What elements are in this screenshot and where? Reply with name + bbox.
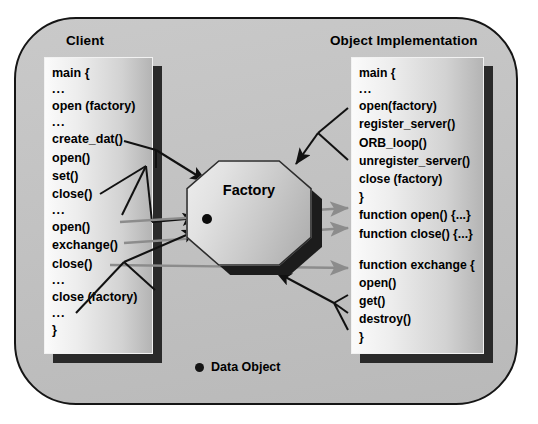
code-line: set() <box>52 167 146 185</box>
code-line: open() <box>52 149 146 167</box>
diagram-root: Client Object Implementation main { ... … <box>0 0 538 424</box>
data-object-dot <box>202 214 212 224</box>
code-line: ... <box>52 82 146 97</box>
data-object-dot-icon <box>195 363 204 372</box>
client-code-box: main { ... open (factory) ... create_dat… <box>44 57 153 354</box>
object-implementation-code-box-surface: main { ... open(factory) register_server… <box>351 57 484 354</box>
code-line: open (factory) <box>52 97 146 115</box>
legend: Data Object <box>195 360 280 374</box>
client-code-box-surface: main { ... open (factory) ... create_dat… <box>44 57 153 354</box>
code-line: ... <box>359 82 477 97</box>
code-line: ... <box>52 203 146 218</box>
code-line: get() <box>359 292 477 310</box>
code-line: open() <box>52 218 146 236</box>
code-line: close() <box>52 255 146 273</box>
object-implementation-code-box: main { ... open(factory) register_server… <box>351 57 484 354</box>
code-line: function open() {...} <box>359 206 477 224</box>
code-line: function exchange { <box>359 256 477 274</box>
code-line: open(factory) <box>359 97 477 115</box>
code-line: register_server() <box>359 115 477 133</box>
code-line: ORB_loop() <box>359 134 477 152</box>
code-line: } <box>359 188 477 206</box>
code-line: function close() {...} <box>359 225 477 243</box>
code-line: ... <box>52 273 146 288</box>
code-line: } <box>52 321 146 339</box>
factory-label: Factory <box>186 182 312 198</box>
code-line: close (factory) <box>359 170 477 188</box>
factory-octagon-outline <box>186 160 312 266</box>
code-line: open() <box>359 274 477 292</box>
object-implementation-title: Object Implementation <box>330 33 478 48</box>
code-line: create_dat() <box>52 130 146 148</box>
code-line: destroy() <box>359 310 477 328</box>
code-line: ... <box>52 306 146 321</box>
client-title: Client <box>66 33 104 48</box>
code-line: close (factory) <box>52 288 146 306</box>
legend-label: Data Object <box>211 360 280 374</box>
code-line: exchange() <box>52 236 146 254</box>
factory-node: Factory <box>186 160 334 282</box>
code-line: close() <box>52 185 146 203</box>
code-line: main { <box>52 64 146 82</box>
code-line <box>359 243 477 256</box>
code-line: } <box>359 328 477 346</box>
code-line: unregister_server() <box>359 152 477 170</box>
code-line: ... <box>52 115 146 130</box>
code-line: main { <box>359 64 477 82</box>
